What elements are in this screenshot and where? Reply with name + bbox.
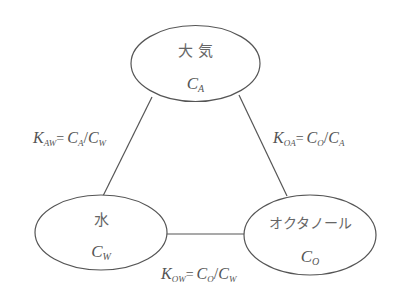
edge-air-water <box>103 97 152 196</box>
edge-label-koa: KOA=CO/CA <box>272 129 345 148</box>
node-water: 水 CW <box>35 195 167 270</box>
partition-diagram: 大 気 CA 水 CW オクタノール CO KAW=CA/CW KOA=CO/C… <box>0 0 395 300</box>
node-octanol: オクタノール CO <box>244 195 376 275</box>
node-water-label: 水 <box>94 211 109 229</box>
edge-label-kow: KOW=CO/CW <box>160 265 238 284</box>
node-octanol-label: オクタノール <box>269 215 352 231</box>
node-air-label: 大 気 <box>178 42 213 60</box>
edge-label-kaw: KAW=CA/CW <box>32 129 108 148</box>
node-air: 大 気 CA <box>131 26 260 102</box>
